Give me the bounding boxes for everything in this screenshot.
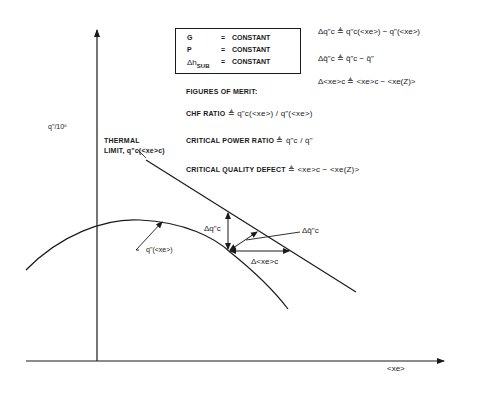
cond-var-dhsub: ΔhSUB: [187, 58, 209, 69]
cond-val-g: CONSTANT: [232, 34, 270, 41]
definition-delta-qbar-c: Δq̄"c ≜ q̄"c − q̄": [318, 55, 374, 63]
definition-delta-xe-c: Δ<xe>c ≜ <xe>c − <xe(Z)>: [318, 78, 416, 86]
fom-formula: ≜ <xe>c − <xe(Z)>: [288, 165, 360, 174]
delta-qbar-c-arrow: [230, 232, 257, 250]
delta-q-c-label: Δq"c: [204, 225, 221, 233]
fom-chf-ratio: CHF RATIO ≜ q"c(<xe>) / q"(<xe>): [186, 110, 313, 118]
cond-var-p: P: [187, 46, 192, 53]
fom-label: CHF RATIO: [186, 110, 225, 117]
thermal-limit-label-2: LIMIT, q"c(<xe>c): [104, 147, 165, 154]
y-axis-label: q"/10⁶: [48, 123, 67, 130]
dh-symbol: Δh: [187, 58, 197, 67]
fom-label: CRITICAL QUALITY DEFECT: [186, 166, 286, 173]
cond-eq-p: =: [221, 46, 225, 53]
fom-critical-quality-defect: CRITICAL QUALITY DEFECT ≜ <xe>c − <xe(Z)…: [186, 166, 359, 174]
cond-val-p: CONSTANT: [232, 46, 270, 53]
thermal-limit-label-1: THERMAL: [104, 137, 140, 144]
fom-label: CRITICAL POWER RATIO: [186, 137, 274, 144]
cond-eq-g: =: [221, 34, 225, 41]
cond-val-dhsub: CONSTANT: [232, 58, 270, 65]
cond-var-g: G: [187, 34, 192, 41]
delta-qbar-c-leader: [246, 232, 300, 240]
delta-xe-c-label: Δ<xe>c: [251, 258, 278, 266]
definition-delta-q-c: Δq"c ≜ q"c(<xe>) − q"(<xe>): [318, 28, 420, 36]
conditions-box: G = CONSTANT P = CONSTANT ΔhSUB = CONSTA…: [175, 28, 301, 74]
fom-formula: ≜ q"c(<xe>) / q"(<xe>): [228, 109, 313, 118]
cond-eq-dhsub: =: [221, 58, 225, 65]
fom-formula: ≜ q̇"c / q̇": [276, 136, 312, 145]
fom-critical-power-ratio: CRITICAL POWER RATIO ≜ q̇"c / q̇": [186, 137, 313, 145]
sub-label: SUB: [197, 63, 210, 69]
operating-curve-label: q"(<xe>): [146, 246, 173, 253]
delta-qbar-c-label: Δq̄"c: [302, 227, 319, 235]
operating-curve: [26, 220, 288, 309]
figures-of-merit-heading: FIGURES OF MERIT:: [186, 88, 257, 95]
x-axis-label: <xe>: [387, 365, 405, 373]
